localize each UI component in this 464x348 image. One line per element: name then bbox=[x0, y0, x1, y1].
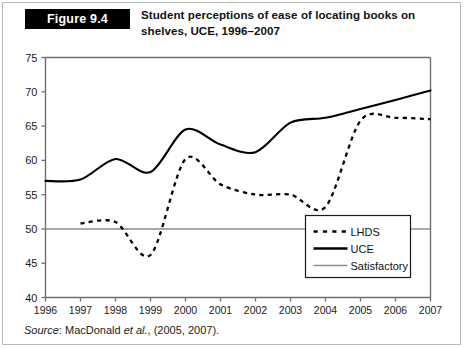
figure-root: Figure 9.4 Student perceptions of ease o… bbox=[0, 0, 464, 348]
x-axis-label-1997: 1997 bbox=[69, 304, 93, 316]
source-etal: et al. bbox=[124, 324, 148, 336]
y-axis-label-50: 50 bbox=[25, 223, 37, 235]
x-axis-label-2000: 2000 bbox=[174, 304, 198, 316]
legend-label-uce: UCE bbox=[351, 243, 374, 255]
source-author: MacDonald bbox=[65, 324, 124, 336]
y-axis-label-65: 65 bbox=[25, 120, 37, 132]
x-axis-label-1999: 1999 bbox=[139, 304, 163, 316]
legend-label-lhds: LHDS bbox=[351, 226, 380, 238]
y-axis-label-45: 45 bbox=[25, 257, 37, 269]
chart-plot-area: 4045505560657075199619971998199920002001… bbox=[0, 0, 464, 348]
y-axis-label-55: 55 bbox=[25, 189, 37, 201]
series-line-uce bbox=[46, 90, 431, 181]
x-axis-label-2003: 2003 bbox=[279, 304, 303, 316]
x-axis-label-2001: 2001 bbox=[209, 304, 233, 316]
y-axis-label-60: 60 bbox=[25, 154, 37, 166]
x-axis-label-2002: 2002 bbox=[244, 304, 268, 316]
x-axis-label-2004: 2004 bbox=[314, 304, 338, 316]
y-axis-label-70: 70 bbox=[25, 86, 37, 98]
x-axis-label-2006: 2006 bbox=[384, 304, 408, 316]
chart-svg: 4045505560657075199619971998199920002001… bbox=[0, 0, 464, 348]
y-axis-label-75: 75 bbox=[25, 52, 37, 64]
y-axis-label-40: 40 bbox=[25, 292, 37, 304]
source-note: Source: MacDonald et al., (2005, 2007). bbox=[24, 324, 219, 336]
source-rest: , (2005, 2007). bbox=[148, 324, 220, 336]
x-axis-label-2005: 2005 bbox=[349, 304, 373, 316]
source-label: Source bbox=[24, 324, 59, 336]
x-axis-label-1998: 1998 bbox=[104, 304, 128, 316]
x-axis-label-1996: 1996 bbox=[34, 304, 58, 316]
x-axis-label-2007: 2007 bbox=[419, 304, 443, 316]
legend-label-satisfactory: Satisfactory bbox=[351, 260, 409, 272]
